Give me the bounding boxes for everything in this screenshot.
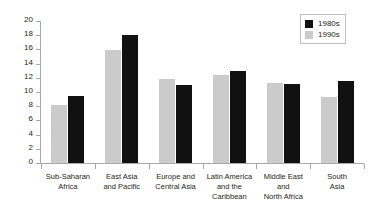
y-axis-tick-mark — [36, 120, 40, 121]
bar-group — [203, 21, 257, 163]
legend-item: 1980s — [305, 18, 340, 29]
x-axis-tick-mark — [310, 164, 311, 169]
bar-1980s-0 — [68, 96, 84, 163]
y-axis-tick-mark — [36, 149, 40, 150]
y-axis-tick-label: 2 — [29, 143, 33, 152]
bar-1990s-5 — [321, 97, 337, 163]
legend-label: 1990s — [318, 30, 340, 39]
bar-group — [149, 21, 203, 163]
x-axis-tick-mark — [364, 164, 365, 169]
bar-1980s-3 — [230, 71, 246, 163]
x-axis-tick-mark — [256, 164, 257, 169]
y-axis-tick-label: 6 — [29, 114, 33, 123]
y-axis-tick-label: 18 — [24, 29, 33, 38]
x-axis-category-label: Sub-Saharan Africa — [38, 172, 98, 192]
legend-swatch-icon — [305, 31, 313, 39]
x-axis-category-label: South Asia — [307, 172, 367, 192]
y-axis-tick-label: 20 — [24, 15, 33, 24]
bar-1990s-2 — [159, 79, 175, 163]
bar-1980s-1 — [122, 35, 138, 163]
x-axis-category-label: East Asia and Pacific — [92, 172, 152, 192]
x-axis-tick-mark — [95, 164, 96, 169]
y-axis-tick-label: 4 — [29, 129, 33, 138]
bar-group — [41, 21, 95, 163]
x-axis-tick-mark — [203, 164, 204, 169]
y-axis-tick-mark — [36, 92, 40, 93]
bar-1980s-5 — [338, 81, 354, 163]
y-axis-tick-mark — [36, 35, 40, 36]
legend-item: 1990s — [305, 29, 340, 40]
legend-label: 1980s — [318, 19, 340, 28]
x-axis-category-label: Middle East and North Africa — [253, 172, 313, 202]
y-axis-tick-label: 0 — [29, 157, 33, 166]
x-axis-tick-mark — [149, 164, 150, 169]
y-axis-tick-label: 16 — [24, 43, 33, 52]
bar-1990s-3 — [213, 75, 229, 163]
bar-group — [95, 21, 149, 163]
y-axis-tick-label: 10 — [24, 86, 33, 95]
y-axis-tick-mark — [36, 64, 40, 65]
legend-swatch-icon — [305, 20, 313, 28]
y-axis-tick-mark — [36, 21, 40, 22]
bar-1990s-0 — [51, 105, 67, 163]
y-axis-tick-mark — [36, 106, 40, 107]
y-axis-tick-mark — [36, 49, 40, 50]
bar-1990s-4 — [267, 83, 283, 163]
bar-1990s-1 — [105, 50, 121, 163]
y-axis-tick-mark — [36, 78, 40, 79]
legend: 1980s1990s — [300, 14, 346, 44]
y-axis-tick-mark — [36, 135, 40, 136]
bar-1980s-4 — [284, 84, 300, 163]
x-axis-category-label: Latin America and the Caribbean — [200, 172, 260, 202]
x-axis-tick-mark — [41, 164, 42, 169]
y-axis-tick-label: 14 — [24, 58, 33, 67]
x-axis-category-label: Europe and Central Asia — [146, 172, 206, 192]
y-axis-tick-label: 8 — [29, 100, 33, 109]
bar-chart: 02468101214161820 Sub-Saharan AfricaEast… — [0, 0, 372, 215]
y-axis-tick-label: 12 — [24, 72, 33, 81]
bar-1980s-2 — [176, 85, 192, 163]
